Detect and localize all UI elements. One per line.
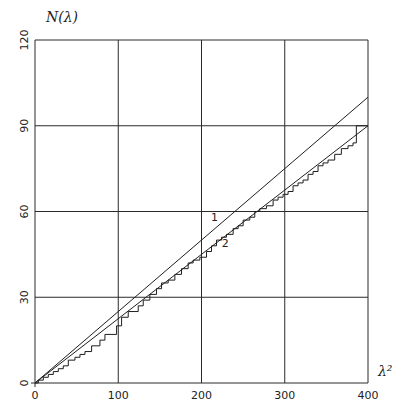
y-tick-label: 0 (18, 380, 31, 387)
x-axis-label: λ² (377, 363, 393, 379)
curve-label-2: 2 (222, 237, 229, 250)
x-tick-label: 0 (32, 389, 39, 402)
grid-lines (31, 40, 368, 387)
x-tick-label: 200 (191, 389, 212, 402)
y-tick-label: 120 (18, 30, 31, 51)
axis-labels: N(λ)λ²12 (45, 9, 393, 379)
y-tick-label: 30 (18, 290, 31, 304)
x-tick-label: 300 (274, 389, 295, 402)
y-axis-label: N(λ) (45, 9, 78, 25)
y-tick-label: 60 (18, 205, 31, 219)
x-tick-label: 400 (358, 389, 379, 402)
curve-label-1: 1 (211, 211, 218, 224)
chart: 01002003004000306090120 N(λ)λ²12 (0, 0, 411, 415)
tick-labels: 01002003004000306090120 (18, 30, 379, 403)
x-tick-label: 100 (108, 389, 129, 402)
y-tick-label: 90 (18, 119, 31, 133)
